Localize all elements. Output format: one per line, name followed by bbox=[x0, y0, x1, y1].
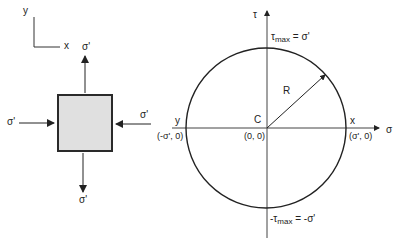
center-coord: (0, 0) bbox=[244, 132, 265, 141]
point-y-label: y bbox=[175, 116, 180, 126]
tau-max-bottom-label: -τmax = -σ' bbox=[270, 214, 315, 224]
stress-label-right: σ' bbox=[140, 110, 148, 120]
diagram-canvas bbox=[0, 0, 397, 246]
stress-label-top: σ' bbox=[82, 42, 90, 52]
sigma-axis-label: σ bbox=[386, 125, 392, 135]
tau-axis-label: τ bbox=[253, 10, 257, 20]
tau-max-top-label: τmax = σ' bbox=[271, 32, 310, 42]
point-x-coord: (σ', 0) bbox=[349, 132, 372, 141]
axis-label-x: x bbox=[64, 41, 69, 51]
point-x-label: x bbox=[350, 116, 355, 126]
stress-label-bottom: σ' bbox=[79, 195, 87, 205]
radius-line bbox=[267, 75, 325, 128]
radius-label: R bbox=[283, 86, 290, 96]
axis-label-y: y bbox=[23, 6, 28, 16]
stress-label-left: σ' bbox=[7, 117, 15, 127]
stress-element bbox=[58, 95, 112, 151]
center-label: C bbox=[254, 115, 261, 125]
point-y-coord: (-σ', 0) bbox=[157, 132, 183, 141]
xy-axes-icon bbox=[34, 17, 60, 47]
